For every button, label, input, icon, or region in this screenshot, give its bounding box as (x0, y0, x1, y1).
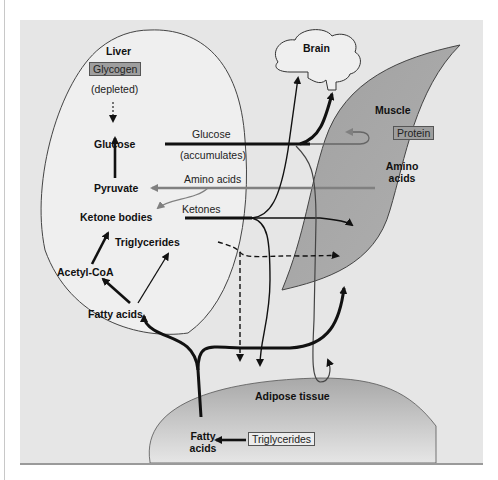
glucose-label: Glucose (94, 138, 135, 150)
brain-label: Brain (303, 42, 330, 54)
glucose-pathway-label: Glucose (192, 128, 231, 140)
glycogen-box: Glycogen (89, 62, 141, 76)
acetyl-coa-label: Acetyl-CoA (57, 266, 114, 278)
depleted-label: (depleted) (91, 83, 138, 95)
pyruvate-label: Pyruvate (94, 182, 138, 194)
page-left-rule (4, 0, 5, 480)
acids-word: acids (389, 172, 416, 184)
diagram-graphics (20, 20, 483, 463)
triglycerides-adipose-box: Triglycerides (248, 432, 315, 446)
adipose-label: Adipose tissue (255, 390, 330, 402)
ketone-bodies-label: Ketone bodies (80, 211, 152, 223)
amino-acids-pathway-label: Amino acids (184, 173, 241, 185)
muscle-shape (282, 45, 460, 290)
metabolism-diagram: Liver Brain Muscle Adipose tissue Glycog… (20, 20, 483, 465)
brain-shape (275, 30, 360, 90)
protein-box: Protein (393, 126, 434, 140)
fatty-acids-adipose-label: Fatty acids (186, 430, 220, 454)
muscle-label: Muscle (375, 104, 411, 116)
liver-label: Liver (106, 45, 131, 57)
acids-word-adipose: acids (190, 442, 217, 454)
accumulates-label: (accumulates) (180, 149, 246, 161)
ketones-pathway-label: Ketones (182, 203, 221, 215)
amino-word: Amino (386, 160, 419, 172)
amino-acids-muscle-label: Amino acids (380, 160, 424, 184)
triglycerides-liver-label: Triglycerides (115, 236, 180, 248)
fatty-acids-liver-label: Fatty acids (88, 308, 143, 320)
fatty-word: Fatty (190, 430, 215, 442)
